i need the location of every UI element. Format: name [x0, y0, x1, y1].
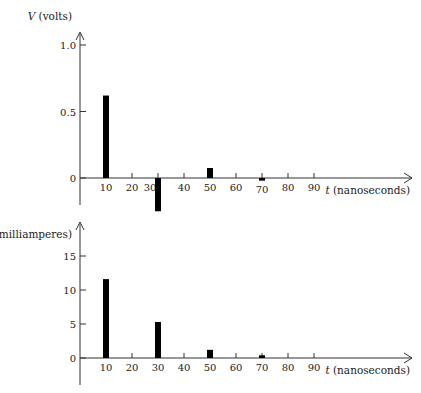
data-bar — [259, 178, 265, 181]
x-tick-label: 90 — [308, 362, 321, 373]
data-bar — [155, 322, 161, 358]
y-axis-label: V (volts) — [28, 10, 72, 22]
data-bar — [259, 355, 265, 358]
y-axis-label: I (milliamperes) — [0, 228, 72, 240]
x-tick-label: 10 — [100, 362, 113, 373]
x-tick-label: 20 — [126, 362, 139, 373]
data-bar — [155, 178, 161, 211]
x-tick-label: 50 — [204, 362, 217, 373]
y-tick-label: 5 — [70, 319, 76, 330]
x-tick-label: 20 — [126, 182, 139, 193]
x-tick-label: 80 — [282, 182, 295, 193]
y-tick-label: 0 — [70, 353, 76, 364]
y-tick-label: 15 — [63, 251, 76, 262]
data-bar — [207, 350, 213, 358]
x-tick-label: 60 — [230, 362, 243, 373]
x-axis-label: t (nanoseconds) — [325, 184, 410, 196]
x-tick-label: 80 — [282, 362, 295, 373]
x-tick-label: 40 — [178, 362, 191, 373]
x-tick-label: 70 — [256, 362, 269, 373]
y-tick-label: 1.0 — [60, 40, 76, 51]
chart-figure: V (volts)t (nanoseconds)00.51.0102030405… — [0, 0, 421, 393]
x-tick-label: 50 — [204, 182, 217, 193]
y-tick-label: 0 — [70, 173, 76, 184]
y-tick-label: 0.5 — [60, 107, 76, 118]
data-bar — [103, 96, 109, 178]
x-tick-label: 60 — [230, 182, 243, 193]
x-tick-label: 70 — [256, 184, 269, 195]
x-tick-label: 90 — [308, 182, 321, 193]
x-tick-label: 30 — [144, 182, 157, 193]
y-tick-label: 10 — [63, 285, 76, 296]
x-axis-label: t (nanoseconds) — [325, 364, 410, 376]
data-bar — [103, 279, 109, 358]
x-tick-label: 10 — [100, 182, 113, 193]
x-tick-label: 30 — [152, 362, 165, 373]
x-tick-label: 40 — [178, 182, 191, 193]
data-bar — [207, 168, 213, 178]
